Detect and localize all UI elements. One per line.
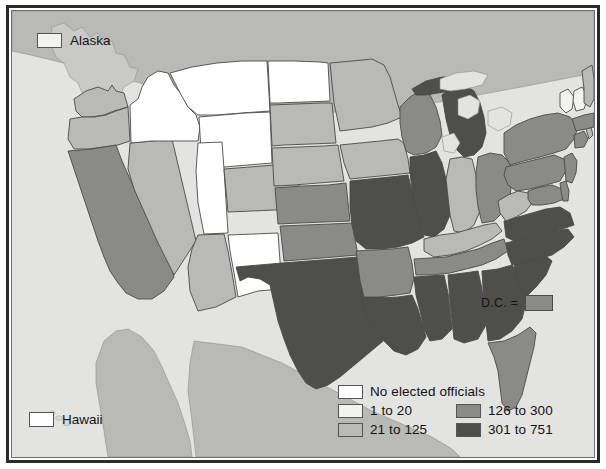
alaska-label: Alaska: [70, 33, 111, 48]
alaska-swatch: [37, 33, 62, 48]
legend-label: 1 to 20: [370, 404, 412, 418]
legend-swatch-21-125: [338, 423, 363, 437]
legend-row: No elected officials: [338, 382, 485, 401]
state-KS: [275, 183, 350, 224]
hawaii-swatch: [29, 412, 54, 427]
state-OK: [280, 223, 358, 261]
legend-swatch-none: [338, 385, 363, 399]
map-page: Alaska Hawaii D.C. = No elected official…: [0, 0, 606, 469]
hawaii-label: Hawaii: [62, 412, 103, 427]
state-IA: [340, 139, 410, 179]
legend-label: No elected officials: [370, 385, 485, 399]
hawaii-inset-callout: Hawaii: [29, 412, 103, 427]
state-SD: [270, 103, 336, 146]
us-choropleth-map: [12, 11, 594, 457]
legend-row: 301 to 751: [456, 420, 553, 439]
dc-label: D.C. =: [481, 296, 518, 310]
legend-swatch-1-20: [338, 404, 363, 418]
dc-swatch: [525, 295, 553, 311]
dc-callout: D.C. =: [481, 295, 553, 311]
legend-label: 301 to 751: [488, 423, 553, 437]
map-stage: [12, 11, 594, 457]
state-ME: [582, 65, 594, 107]
legend-label: 126 to 300: [488, 404, 553, 418]
legend-row: 126 to 300: [456, 401, 553, 420]
legend-label: 21 to 125: [370, 423, 427, 437]
state-AR: [356, 247, 414, 297]
alaska-inset-callout: Alaska: [37, 33, 111, 48]
legend-swatch-301-751: [456, 423, 481, 437]
legend-swatch-126-300: [456, 404, 481, 418]
state-ND: [268, 61, 330, 103]
legend-column-right: 126 to 300301 to 751: [456, 401, 553, 439]
state-NE: [272, 145, 344, 186]
